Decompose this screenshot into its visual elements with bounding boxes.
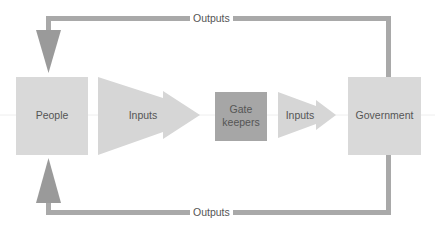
outputs-top-connector: [36, 16, 391, 77]
people-label: People: [16, 109, 88, 121]
outputs-top-label: Outputs: [190, 12, 233, 24]
down-arrowhead-icon: [36, 30, 61, 73]
political-system-diagram: People Inputs Gate keepers Inputs Govern…: [0, 0, 435, 228]
outputs-bottom-label: Outputs: [190, 206, 233, 218]
inputs-1-label: Inputs: [118, 109, 168, 121]
up-arrowhead-icon: [36, 158, 61, 203]
government-label: Government: [348, 109, 421, 121]
gatekeepers-label-line1: Gate: [215, 103, 267, 115]
inputs-2-label: Inputs: [280, 109, 320, 121]
gatekeepers-label-line2: keepers: [215, 116, 267, 128]
